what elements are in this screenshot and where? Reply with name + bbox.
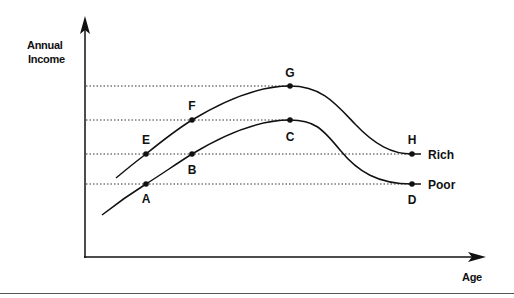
- label-a: A: [142, 192, 151, 206]
- point-e: [143, 151, 149, 157]
- point-b: [189, 151, 195, 157]
- axes: [80, 16, 486, 262]
- label-c: C: [286, 130, 295, 144]
- series-label-poor: Poor: [428, 178, 456, 192]
- point-g: [287, 83, 293, 89]
- label-f: F: [188, 99, 195, 113]
- label-e: E: [142, 133, 150, 147]
- guide-lines: [86, 86, 412, 184]
- point-c: [287, 117, 293, 123]
- y-axis-title-line1: Annual: [27, 39, 63, 51]
- rich-curve: [116, 86, 421, 178]
- series-label-rich: Rich: [428, 148, 454, 162]
- income-age-diagram: Annual Income Age E F G H A B C D Rich P…: [0, 0, 514, 298]
- label-h: H: [408, 133, 417, 147]
- y-axis-title-line2: Income: [28, 53, 65, 65]
- label-d: D: [408, 193, 417, 207]
- x-axis-title: Age: [462, 271, 482, 283]
- point-a: [143, 181, 149, 187]
- label-g: G: [285, 66, 294, 80]
- point-d: [409, 181, 415, 187]
- point-f: [189, 117, 195, 123]
- label-b: B: [188, 163, 197, 177]
- point-h: [409, 151, 415, 157]
- data-points: [143, 83, 415, 187]
